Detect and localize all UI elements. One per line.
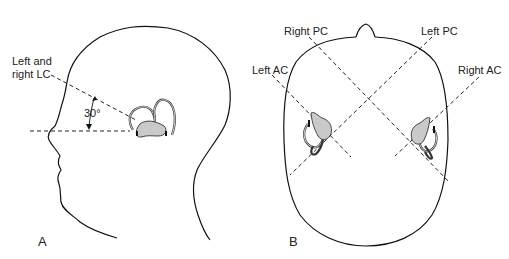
right-ac-line <box>395 77 479 156</box>
panel-a: Left and right LC 30° A <box>12 26 230 249</box>
right-ac-label: Right AC <box>458 64 501 76</box>
panel-b: Right PC Left PC Left AC Right AC B <box>252 24 501 249</box>
left-pc-label: Left PC <box>421 25 458 37</box>
panel-a-label: A <box>38 234 47 249</box>
nose-outline <box>356 24 375 37</box>
labyrinth-left <box>304 113 331 155</box>
labyrinth-lateral <box>130 100 175 137</box>
right-pc-line <box>309 37 450 183</box>
angle-arrow-bottom <box>86 124 92 130</box>
diagram-canvas: Left and right LC 30° A Right PC Left PC… <box>0 0 509 259</box>
lc-label-line2: right LC <box>12 68 51 80</box>
angle-label: 30° <box>84 107 101 119</box>
lc-label-line1: Left and <box>12 55 52 67</box>
left-ac-label: Left AC <box>252 64 288 76</box>
labyrinth-right <box>411 118 436 159</box>
panel-b-label: B <box>289 234 298 249</box>
right-pc-label: Right PC <box>284 25 328 37</box>
angle-arrow-top <box>92 96 97 101</box>
